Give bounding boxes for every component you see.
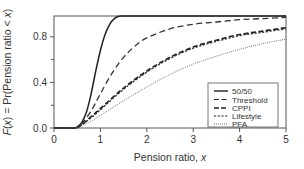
legend: 50/50 Threshold CPPI Lifestyle PFA <box>208 83 278 129</box>
cdf-chart: 012345 0.00.40.8 Pension ratio, x F(x) =… <box>0 0 304 169</box>
x-tick-label: 5 <box>283 134 289 145</box>
legend-label-pfa: PFA <box>232 120 248 129</box>
x-tick-label: 4 <box>237 134 243 145</box>
y-axis: 0.00.40.8 <box>33 31 54 133</box>
x-axis-label: Pension ratio, x <box>134 151 207 163</box>
x-tick-label: 0 <box>51 134 57 145</box>
x-tick-label: 3 <box>190 134 196 145</box>
y-tick-label: 0.8 <box>33 31 47 42</box>
x-tick-label: 1 <box>98 134 104 145</box>
y-tick-label: 0.4 <box>33 77 47 88</box>
y-tick-label: 0.0 <box>33 123 47 134</box>
x-axis: 012345 <box>51 128 289 145</box>
y-axis-label: F(x) = Pr(Pension ratio < x) <box>1 9 13 136</box>
x-tick-label: 2 <box>144 134 150 145</box>
